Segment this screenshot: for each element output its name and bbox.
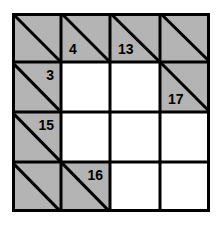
entry-cell-r2c2[interactable] [110,112,160,162]
clue-cell-r0c1: 4 [61,13,110,62]
clue-cell-r2c0: 15 [12,112,61,162]
diagonal-divider-icon [160,13,210,62]
clue-cell-r3c0 [12,162,61,212]
diagonal-divider-icon [12,162,61,212]
entry-cell-r2c3[interactable] [160,112,210,162]
across-clue: 3 [46,68,54,82]
entry-cell-r3c3[interactable] [160,162,210,212]
clue-cell-r0c2: 13 [110,13,160,62]
entry-cell-r1c1[interactable] [61,62,110,112]
clue-cell-r3c1: 16 [61,162,110,212]
down-clue: 4 [69,42,77,56]
clue-cell-r0c3 [160,13,210,62]
kakuro-board: 4 13 3 17 15 16 [12,13,210,212]
clue-cell-r0c0 [12,13,61,62]
entry-cell-r1c2[interactable] [110,62,160,112]
down-clue: 17 [168,92,184,106]
across-clue: 16 [87,168,103,182]
down-clue: 13 [118,42,134,56]
entry-cell-r3c2[interactable] [110,162,160,212]
clue-cell-r1c3: 17 [160,62,210,112]
diagonal-divider-icon [12,13,61,62]
clue-cell-r1c0: 3 [12,62,61,112]
entry-cell-r2c1[interactable] [61,112,110,162]
across-clue: 15 [38,118,54,132]
